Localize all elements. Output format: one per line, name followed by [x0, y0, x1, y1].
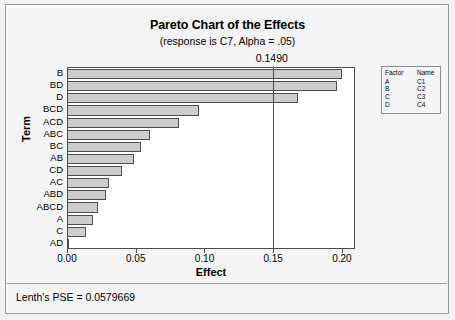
y-tick-label-abd: ABD	[12, 189, 63, 198]
x-tick-mark	[342, 249, 343, 253]
legend-header-name: Name	[405, 69, 437, 78]
x-tick-mark	[136, 249, 137, 253]
bar-row	[68, 153, 354, 165]
legend-body: AC1BC2CC3DC4	[385, 78, 437, 109]
bar-row	[68, 201, 354, 213]
y-tick-label-bd: BD	[12, 80, 63, 89]
bar-abc	[68, 130, 150, 140]
y-tick-label-ab: AB	[12, 153, 63, 162]
reference-line	[273, 68, 274, 248]
bar-ad	[68, 239, 69, 249]
bar-c	[68, 227, 86, 237]
legend-factor-b: B	[385, 85, 405, 93]
bar-row	[68, 177, 354, 189]
bar-d	[68, 93, 298, 103]
legend-header-factor: Factor	[385, 69, 405, 78]
reference-line-label: 0.1490	[242, 52, 302, 64]
x-tick-mark	[67, 249, 68, 253]
bar-b	[68, 69, 342, 79]
legend-name-c2: C2	[405, 85, 437, 93]
bar-row	[68, 68, 354, 80]
legend-table: Factor Name AC1BC2CC3DC4	[385, 69, 437, 109]
x-tick-label-0-05: 0.05	[116, 253, 156, 264]
bar-abcd	[68, 202, 98, 212]
bar-cd	[68, 166, 122, 176]
x-tick-label-0-00: 0.00	[47, 253, 87, 264]
bar-row	[68, 129, 354, 141]
legend-factor-d: D	[385, 101, 405, 109]
pareto-chart-screenshot: Pareto Chart of the Effects (response is…	[0, 0, 455, 320]
bar-bc	[68, 142, 141, 152]
bar-row	[68, 92, 354, 104]
bar-row	[68, 226, 354, 238]
chart-subtitle: (response is C7, Alpha = .05)	[0, 35, 455, 47]
footnote-lenths-pse: Lenth's PSE = 0.0579669	[16, 291, 135, 303]
bar-row	[68, 141, 354, 153]
bar-row	[68, 189, 354, 201]
bar-a	[68, 215, 93, 225]
y-tick-label-bcd: BCD	[12, 104, 63, 113]
bar-row	[68, 165, 354, 177]
x-axis-tick-labels: 0.000.050.100.150.20	[0, 253, 455, 267]
x-tick-mark	[273, 249, 274, 253]
legend-name-c3: C3	[405, 93, 437, 101]
bar-row	[68, 214, 354, 226]
y-tick-label-a: A	[12, 214, 63, 223]
y-tick-label-ad: AD	[12, 238, 63, 247]
x-axis-title: Effect	[67, 266, 355, 278]
x-tick-label-0-20: 0.20	[322, 253, 362, 264]
y-tick-label-d: D	[12, 92, 63, 101]
bar-bd	[68, 81, 337, 91]
x-tick-label-0-10: 0.10	[184, 253, 224, 264]
bars-layer	[68, 68, 354, 248]
footer-separator	[7, 283, 447, 284]
bar-row	[68, 238, 354, 250]
x-tick-mark	[204, 249, 205, 253]
legend-row: CC3	[385, 93, 437, 101]
factor-legend: Factor Name AC1BC2CC3DC4	[381, 66, 441, 114]
x-tick-label-0-15: 0.15	[253, 253, 293, 264]
y-tick-label-b: B	[12, 68, 63, 77]
bar-ac	[68, 178, 109, 188]
legend-factor-a: A	[385, 78, 405, 86]
y-tick-label-cd: CD	[12, 165, 63, 174]
legend-name-c1: C1	[405, 78, 437, 86]
chart-title: Pareto Chart of the Effects	[0, 18, 455, 32]
legend-factor-c: C	[385, 93, 405, 101]
bar-row	[68, 104, 354, 116]
y-axis-tick-labels: BBDDBCDACDABCBCABCDACABDABCDACAD	[10, 67, 63, 249]
legend-row: DC4	[385, 101, 437, 109]
legend-row: AC1	[385, 78, 437, 86]
bar-row	[68, 117, 354, 129]
bar-acd	[68, 118, 179, 128]
y-tick-label-abcd: ABCD	[12, 202, 63, 211]
legend-header-row: Factor Name	[385, 69, 437, 78]
bar-row	[68, 80, 354, 92]
y-tick-label-bc: BC	[12, 141, 63, 150]
y-tick-label-acd: ACD	[12, 117, 63, 126]
bar-abd	[68, 190, 106, 200]
y-tick-label-abc: ABC	[12, 129, 63, 138]
legend-row: BC2	[385, 85, 437, 93]
bar-ab	[68, 154, 134, 164]
plot-area	[67, 67, 355, 249]
y-tick-label-c: C	[12, 226, 63, 235]
legend-name-c4: C4	[405, 101, 437, 109]
bar-bcd	[68, 105, 199, 115]
y-tick-label-ac: AC	[12, 177, 63, 186]
